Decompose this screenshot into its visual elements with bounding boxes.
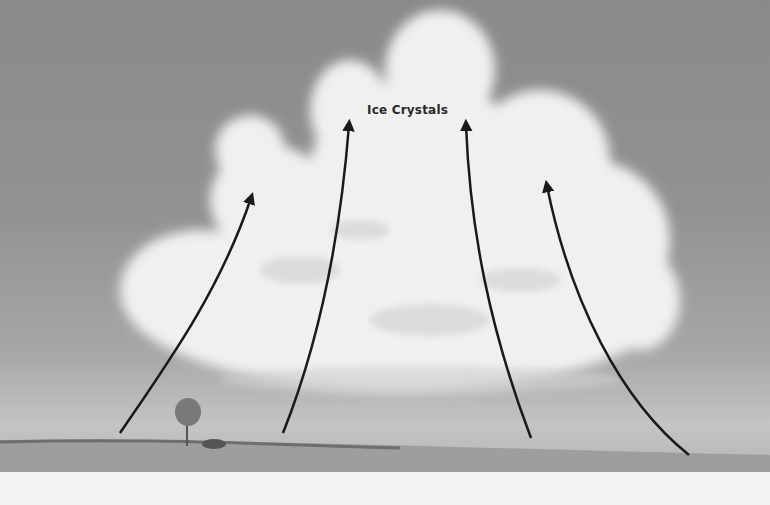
illustration: Ice Crystals — [0, 0, 770, 472]
cloud-illustration — [0, 0, 770, 472]
ice-crystals-label: Ice Crystals — [367, 103, 448, 117]
page-margin — [0, 472, 770, 505]
